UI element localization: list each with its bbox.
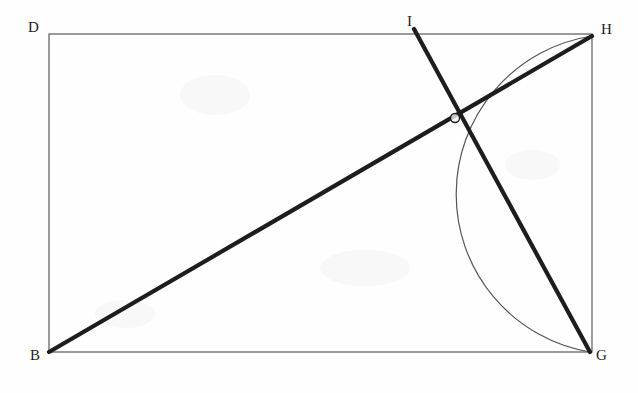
vertex-label-H: H xyxy=(601,22,612,37)
figure-canvas: D I H B G xyxy=(0,0,638,393)
diagonal-BH xyxy=(49,36,592,352)
vertex-label-I: I xyxy=(407,14,412,29)
geometry-drawing xyxy=(0,0,638,393)
vertex-label-B: B xyxy=(30,348,40,363)
intersection-A-marker xyxy=(451,114,460,123)
vertex-label-D: D xyxy=(28,20,39,35)
vertex-label-G: G xyxy=(596,348,607,363)
arc-HG xyxy=(456,36,592,352)
line-IG xyxy=(414,29,590,352)
